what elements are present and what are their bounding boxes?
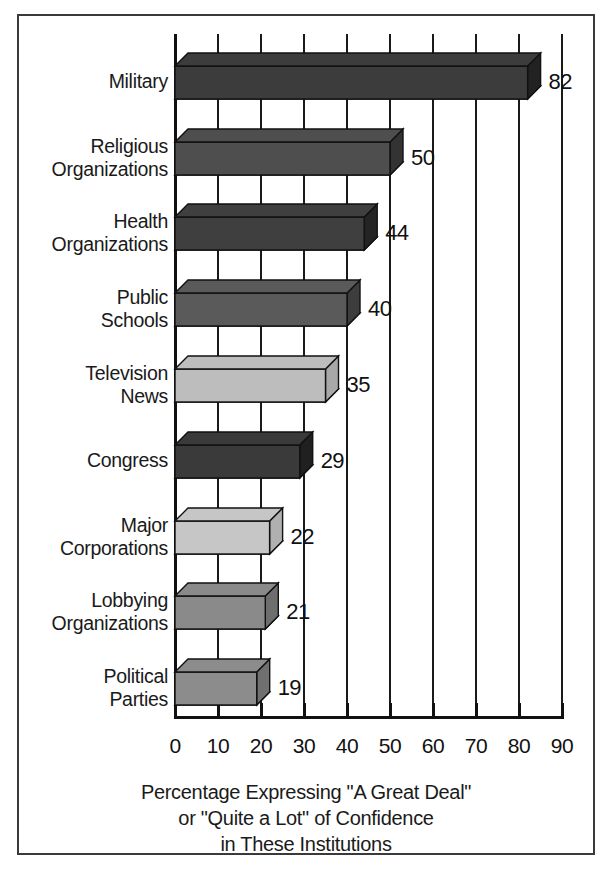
category-label-military: Military [109,70,168,93]
gridline-80 [518,34,520,716]
category-label-line: Lobbying [52,589,168,612]
x-tick-30 [303,703,306,716]
value-label-21: 21 [286,599,309,625]
category-label-major-corporations: MajorCorporations [60,514,168,560]
x-tick-90 [561,703,564,716]
x-tick-60 [432,703,435,716]
category-label-public-schools: PublicSchools [101,286,168,332]
value-label-22: 22 [291,524,314,550]
category-label-line: Schools [101,309,168,332]
value-label-50: 50 [411,145,434,171]
category-label-lobbying-organizations: LobbyingOrganizations [52,589,168,635]
x-tick-label-30: 30 [284,734,324,758]
category-label-line: Military [109,70,168,93]
x-tick-label-20: 20 [241,734,281,758]
category-label-television-news: TelevisionNews [85,362,168,408]
x-tick-80 [518,703,521,716]
category-label-health-organizations: HealthOrganizations [52,210,168,256]
bar-religious-organizations [175,129,405,177]
category-label-political-parties: PoliticalParties [104,665,169,711]
category-label-line: Corporations [60,537,168,560]
x-tick-label-40: 40 [327,734,367,758]
caption-line-2: or "Quite a Lot" of Confidence [17,805,595,831]
x-axis-line [174,716,564,719]
bar-television-news [175,356,341,404]
bar-congress [175,432,315,480]
category-label-religious-organizations: ReligiousOrganizations [52,135,168,181]
bar-health-organizations [175,204,379,252]
x-tick-label-80: 80 [499,734,539,758]
gridline-70 [475,34,477,716]
x-tick-label-90: 90 [542,734,582,758]
category-label-line: Major [60,514,168,537]
x-tick-40 [346,703,349,716]
caption-line-3: in These Institutions [17,831,595,857]
value-label-29: 29 [321,448,344,474]
bar-political-parties [175,659,272,707]
value-label-19: 19 [278,675,301,701]
x-tick-label-70: 70 [456,734,496,758]
category-label-line: Public [101,286,168,309]
value-label-35: 35 [347,372,370,398]
category-label-line: Parties [104,688,169,711]
category-label-line: Television [85,362,168,385]
x-tick-label-0: 0 [155,734,195,758]
x-tick-50 [389,703,392,716]
bar-chart-plot: 0102030405060708090 MilitaryReligiousOrg… [0,0,609,882]
bar-major-corporations [175,508,285,556]
category-label-line: Organizations [52,612,168,635]
category-label-line: Congress [87,449,168,472]
x-tick-label-60: 60 [413,734,453,758]
axis-caption: Percentage Expressing "A Great Deal" or … [17,779,595,857]
category-label-line: News [85,385,168,408]
category-label-line: Political [104,665,169,688]
category-label-line: Health [52,210,168,233]
bar-lobbying-organizations [175,583,280,631]
x-tick-70 [475,703,478,716]
caption-line-1: Percentage Expressing "A Great Deal" [17,779,595,805]
category-label-line: Organizations [52,158,168,181]
category-label-congress: Congress [87,449,168,472]
value-label-44: 44 [385,220,408,246]
value-label-82: 82 [549,69,572,95]
category-label-line: Religious [52,135,168,158]
gridline-60 [432,34,434,716]
bar-public-schools [175,280,362,328]
value-label-40: 40 [368,296,391,322]
gridline-90 [561,34,563,716]
bar-military [175,53,543,101]
x-tick-label-50: 50 [370,734,410,758]
x-tick-label-10: 10 [198,734,238,758]
category-label-line: Organizations [52,233,168,256]
